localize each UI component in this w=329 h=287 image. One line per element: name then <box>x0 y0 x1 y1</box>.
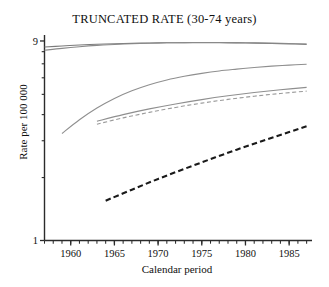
x-tick-label: 1985 <box>279 248 300 259</box>
data-series-line <box>97 91 307 124</box>
x-tick-label: 1975 <box>191 248 212 259</box>
x-tick-label: 1965 <box>104 248 125 259</box>
plot-area: 91196019651970197519801985 <box>0 0 329 287</box>
y-tick-label: 9 <box>33 36 38 47</box>
data-series-layer <box>45 42 307 200</box>
x-tick-label: 1980 <box>235 248 256 259</box>
data-series-line <box>106 126 307 200</box>
y-tick-label: 1 <box>33 235 38 246</box>
chart-figure: TRUNCATED RATE (30-74 years) Rate per 10… <box>0 0 329 287</box>
tick-labels: 91196019651970197519801985 <box>33 36 300 259</box>
x-tick-label: 1960 <box>60 248 81 259</box>
data-series-line <box>62 64 307 133</box>
x-tick-label: 1970 <box>148 248 169 259</box>
